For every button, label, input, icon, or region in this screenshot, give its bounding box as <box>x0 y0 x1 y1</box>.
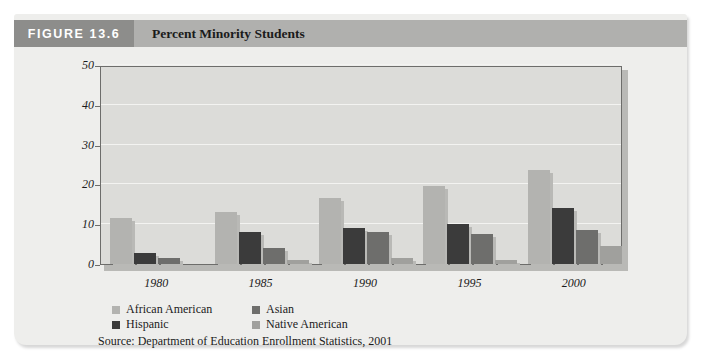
bar <box>447 224 469 264</box>
bar-group <box>528 67 622 264</box>
bar <box>423 186 445 264</box>
bar <box>319 198 341 264</box>
x-axis-tick-label: 1980 <box>116 276 196 291</box>
figure-panel: FIGURE 13.6 Percent Minority Students 01… <box>14 14 687 345</box>
legend-swatch-icon <box>112 321 120 329</box>
legend-label: Asian <box>266 302 294 317</box>
bar <box>134 253 156 264</box>
bar <box>263 248 285 264</box>
legend-item: Hispanic <box>112 317 252 332</box>
figure-caption: Percent Minority Students <box>134 20 687 47</box>
legend-label: Native American <box>266 317 348 332</box>
legend-swatch-icon <box>112 306 120 314</box>
bar-group <box>319 67 413 264</box>
bar <box>471 234 493 264</box>
chart-legend: African AmericanAsianHispanicNative Amer… <box>112 302 542 332</box>
y-axis-tick-label: 20 <box>48 177 94 192</box>
bar <box>110 218 132 264</box>
x-axis-tick-label: 2000 <box>534 276 614 291</box>
bars-layer <box>101 67 621 264</box>
bar <box>528 170 550 264</box>
plot-area <box>100 66 622 265</box>
bar <box>495 260 517 264</box>
bar <box>239 232 261 264</box>
legend-item: Asian <box>252 302 392 317</box>
bar <box>576 230 598 264</box>
bar-group <box>423 67 517 264</box>
bar <box>552 208 574 264</box>
gridline <box>101 64 621 65</box>
legend-row: African AmericanAsian <box>112 302 542 317</box>
legend-swatch-icon <box>252 321 260 329</box>
bar <box>287 260 309 264</box>
figure-number-label: FIGURE 13.6 <box>14 20 134 47</box>
legend-swatch-icon <box>252 306 260 314</box>
legend-item: Native American <box>252 317 392 332</box>
y-axis-tick-label: 30 <box>48 138 94 153</box>
legend-item: African American <box>112 302 252 317</box>
figure-header: FIGURE 13.6 Percent Minority Students <box>14 20 687 47</box>
y-axis-tick-label: 40 <box>48 98 94 113</box>
y-axis-tick-label: 10 <box>48 217 94 232</box>
legend-row: HispanicNative American <box>112 317 542 332</box>
y-axis-tick-label: 0 <box>48 257 94 272</box>
bar-group <box>110 67 204 264</box>
bar <box>391 258 413 264</box>
x-axis-tick-label: 1985 <box>221 276 301 291</box>
plot-wrap <box>100 66 630 271</box>
bar <box>343 228 365 264</box>
legend-label: African American <box>126 302 212 317</box>
legend-label: Hispanic <box>126 317 169 332</box>
bar <box>600 246 622 264</box>
bar <box>158 258 180 264</box>
source-note: Source: Department of Education Enrollme… <box>98 334 392 349</box>
bar <box>367 232 389 264</box>
y-axis-tick-label: 50 <box>48 58 94 73</box>
bar <box>215 212 237 264</box>
x-axis-tick-label: 1990 <box>325 276 405 291</box>
x-axis-tick-label: 1995 <box>429 276 509 291</box>
bar-group <box>215 67 309 264</box>
